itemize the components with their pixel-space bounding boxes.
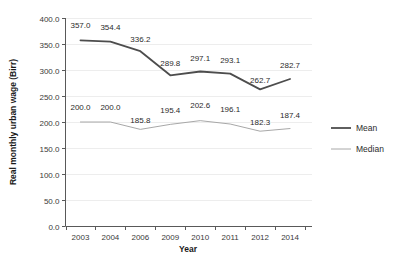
- y-tick-label: 0.0: [48, 223, 60, 232]
- y-tick-label: 50.0: [44, 197, 60, 206]
- data-label: 182.3: [250, 118, 271, 127]
- data-label: 289.8: [160, 59, 181, 68]
- data-label: 282.7: [280, 61, 301, 70]
- y-tick-label: 100.0: [39, 171, 60, 180]
- data-label: 202.6: [190, 101, 211, 110]
- data-label: 200.0: [70, 103, 91, 112]
- data-label: 196.1: [220, 105, 241, 114]
- x-tick-label: 2011: [222, 233, 240, 242]
- x-tick-label: 2006: [131, 233, 149, 242]
- x-tick-label: 2010: [191, 233, 209, 242]
- x-axis-title: Year: [179, 244, 198, 254]
- data-label: 185.8: [130, 116, 151, 125]
- x-tick-label: 2009: [161, 233, 179, 242]
- y-tick-label: 200.0: [39, 119, 60, 128]
- y-tick-label: 250.0: [39, 93, 60, 102]
- x-tick-label: 2012: [251, 233, 269, 242]
- data-label: 262.7: [250, 76, 271, 85]
- data-label: 354.4: [100, 23, 121, 32]
- data-label: 357.0: [70, 21, 91, 30]
- data-label: 293.1: [220, 56, 241, 65]
- x-tick-label: 2003: [72, 233, 90, 242]
- data-label: 336.2: [130, 35, 151, 44]
- legend-label-median: Median: [356, 144, 384, 154]
- data-label: 297.1: [190, 54, 211, 63]
- line-chart-canvas: 400.0350.0300.0250.0200.0150.0100.050.00…: [0, 0, 402, 269]
- x-tick-label: 2014: [281, 233, 299, 242]
- data-label: 187.4: [280, 111, 301, 120]
- data-label: 195.4: [160, 106, 181, 115]
- y-tick-label: 350.0: [39, 41, 60, 50]
- data-label: 200.0: [100, 103, 121, 112]
- legend-label-mean: Mean: [356, 123, 378, 133]
- y-tick-label: 400.0: [39, 15, 60, 24]
- y-axis-title: Real monthly urban wage (Birr): [8, 59, 18, 185]
- y-tick-label: 300.0: [39, 67, 60, 76]
- y-tick-label: 150.0: [39, 145, 60, 154]
- chart-figure: 400.0350.0300.0250.0200.0150.0100.050.00…: [0, 0, 402, 269]
- x-tick-label: 2004: [102, 233, 120, 242]
- chart-background: [0, 0, 402, 269]
